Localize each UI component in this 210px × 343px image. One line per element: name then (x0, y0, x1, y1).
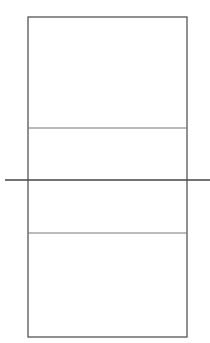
volleyball-court-diagram (0, 0, 210, 343)
court-boundary (28, 17, 187, 337)
